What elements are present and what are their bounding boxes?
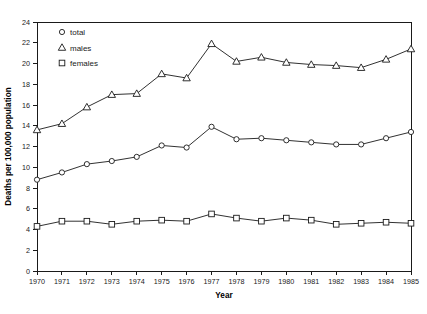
marker-square — [134, 218, 140, 224]
marker-circle — [134, 154, 139, 159]
x-tick-label: 1976 — [179, 277, 195, 286]
marker-square — [358, 220, 364, 226]
y-tick-label: 0 — [26, 267, 30, 276]
y-tick-label: 12 — [22, 142, 30, 151]
marker-circle — [408, 129, 413, 134]
x-tick-label: 1972 — [79, 277, 95, 286]
marker-square — [383, 219, 389, 225]
series-line-females — [37, 214, 411, 226]
marker-square — [109, 222, 115, 228]
marker-triangle — [382, 56, 389, 62]
marker-square — [234, 215, 240, 221]
marker-circle — [34, 177, 39, 182]
y-axis: 024681012141618202224 — [22, 18, 37, 276]
line-chart: 0246810121416182022241970197119721973197… — [0, 0, 427, 314]
marker-circle — [359, 142, 364, 147]
marker-square — [333, 222, 339, 228]
series-females — [34, 211, 414, 229]
x-tick-label: 1974 — [129, 277, 145, 286]
marker-triangle — [133, 90, 140, 96]
x-tick-label: 1984 — [378, 277, 394, 286]
series-line-total — [37, 127, 411, 180]
marker-triangle — [158, 70, 165, 76]
marker-square — [159, 217, 165, 223]
marker-circle — [309, 140, 314, 145]
marker-square — [34, 224, 40, 230]
series-males — [33, 40, 414, 133]
x-tick-label: 1975 — [154, 277, 170, 286]
x-tick-label: 1985 — [403, 277, 419, 286]
marker-triangle — [208, 40, 215, 46]
y-tick-label: 2 — [26, 246, 30, 255]
marker-circle — [159, 143, 164, 148]
marker-triangle — [58, 44, 65, 50]
y-tick-label: 20 — [22, 59, 30, 68]
marker-square — [84, 218, 90, 224]
x-tick-label: 1977 — [204, 277, 220, 286]
legend-label-males: males — [70, 44, 91, 53]
marker-circle — [259, 136, 264, 141]
y-tick-label: 16 — [22, 101, 30, 110]
series-total — [34, 124, 413, 182]
marker-triangle — [58, 120, 65, 126]
marker-circle — [284, 138, 289, 143]
legend-label-total: total — [70, 28, 85, 37]
y-tick-label: 24 — [22, 18, 30, 27]
series-line-males — [37, 44, 411, 130]
x-tick-label: 1970 — [29, 277, 45, 286]
x-tick-label: 1981 — [303, 277, 319, 286]
marker-square — [59, 60, 65, 66]
y-tick-label: 8 — [26, 184, 30, 193]
marker-circle — [234, 137, 239, 142]
marker-square — [209, 211, 215, 217]
marker-triangle — [407, 45, 414, 51]
y-tick-label: 10 — [22, 163, 30, 172]
x-axis-title: Year — [215, 291, 233, 300]
marker-circle — [184, 145, 189, 150]
x-tick-label: 1982 — [328, 277, 344, 286]
marker-triangle — [83, 103, 90, 109]
marker-circle — [84, 162, 89, 167]
marker-square — [184, 218, 190, 224]
marker-circle — [59, 29, 64, 34]
marker-triangle — [258, 54, 265, 60]
y-tick-label: 6 — [26, 204, 30, 213]
y-tick-label: 18 — [22, 80, 30, 89]
marker-circle — [383, 136, 388, 141]
marker-square — [59, 218, 65, 224]
marker-circle — [109, 158, 114, 163]
x-tick-label: 1971 — [54, 277, 70, 286]
marker-square — [259, 218, 265, 224]
y-tick-label: 22 — [22, 38, 30, 47]
x-tick-label: 1980 — [278, 277, 294, 286]
x-axis: 1970197119721973197419751976197719781979… — [29, 271, 419, 286]
legend-label-females: females — [70, 59, 98, 68]
x-tick-label: 1978 — [228, 277, 244, 286]
marker-square — [308, 217, 314, 223]
y-tick-label: 14 — [22, 121, 30, 130]
marker-circle — [334, 142, 339, 147]
marker-circle — [209, 124, 214, 129]
x-tick-label: 1973 — [104, 277, 120, 286]
y-axis-title: Deaths per 100,000 population — [4, 87, 13, 205]
x-tick-label: 1983 — [353, 277, 369, 286]
x-tick-label: 1979 — [253, 277, 269, 286]
marker-circle — [59, 170, 64, 175]
chart-container: 0246810121416182022241970197119721973197… — [0, 0, 427, 314]
legend: totalmalesfemales — [58, 28, 98, 68]
y-tick-label: 4 — [26, 225, 30, 234]
marker-square — [408, 220, 414, 226]
marker-square — [284, 215, 290, 221]
